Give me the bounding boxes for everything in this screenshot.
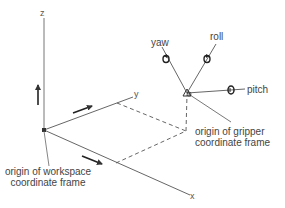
workspace-origin-label-line2: coordinate frame — [4, 177, 92, 188]
x-direction-arrow — [82, 156, 102, 164]
z-axis-label: z — [40, 8, 45, 19]
gripper-origin-leader — [187, 93, 231, 122]
gripper-origin-label-line1: origin of gripper — [195, 126, 270, 137]
roll-axis — [187, 44, 216, 93]
projection-vertical — [186, 95, 187, 131]
y-direction-arrow — [73, 106, 92, 113]
pitch-axis — [187, 89, 245, 93]
projection-from-x — [116, 131, 186, 163]
roll-label: roll — [210, 31, 223, 42]
workspace-origin-label: origin of workspace coordinate frame — [4, 166, 92, 188]
workspace-origin-leader — [44, 131, 49, 166]
gripper-origin-label-line2: coordinate frame — [195, 137, 270, 148]
gripper-origin-label: origin of gripper coordinate frame — [195, 126, 270, 148]
projection-from-y — [117, 103, 186, 131]
workspace-origin-label-line1: origin of workspace — [4, 166, 92, 177]
yaw-axis — [162, 47, 187, 93]
yaw-label: yaw — [151, 37, 169, 48]
pitch-label: pitch — [247, 84, 268, 95]
y-axis-label: y — [134, 89, 139, 100]
y-axis — [44, 97, 133, 130]
x-axis-label: x — [190, 191, 195, 202]
